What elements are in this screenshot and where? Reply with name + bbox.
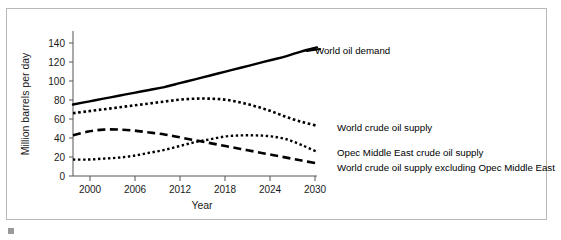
y-axis-ticks: [69, 43, 73, 176]
series-annotation-world-crude-excluding-opec: World crude oil supply excluding Opec Mi…: [337, 162, 555, 173]
oil-supply-demand-chart: 140 120 100 80 60 40 20 0 2000 2006 2012…: [7, 9, 546, 219]
x-tick-label-2012: 2012: [169, 184, 192, 195]
series-annotation-opec-middle-east-crude-oil-supply: Opec Middle East crude oil supply: [337, 147, 483, 158]
x-tick-label-2030: 2030: [304, 184, 327, 195]
series-line-world-crude-oil-supply: [73, 99, 317, 126]
y-axis-title: Million barrels per day: [19, 52, 31, 155]
series-line-world-oil-demand: [73, 47, 317, 104]
corner-artifact-mark: [8, 228, 14, 234]
y-tick-label-140: 140: [48, 38, 65, 49]
y-tick-label-120: 120: [48, 57, 65, 68]
y-tick-label-80: 80: [54, 95, 66, 106]
x-tick-label-2024: 2024: [259, 184, 282, 195]
x-axis-ticks: [90, 176, 315, 181]
y-tick-label-40: 40: [54, 133, 66, 144]
series-annotation-world-oil-demand: World oil demand: [315, 45, 390, 56]
y-tick-label-20: 20: [54, 152, 66, 163]
x-tick-label-2006: 2006: [124, 184, 147, 195]
series-annotation-world-crude-oil-supply: World crude oil supply: [337, 122, 432, 133]
x-axis-title: Year: [191, 199, 213, 211]
x-tick-label-2018: 2018: [214, 184, 237, 195]
series-line-opec-middle-east-crude-oil-supply: [73, 135, 317, 159]
y-tick-label-60: 60: [54, 114, 66, 125]
y-tick-label-100: 100: [48, 76, 65, 87]
x-tick-label-2000: 2000: [79, 184, 102, 195]
y-tick-label-0: 0: [59, 171, 65, 182]
figure-frame: 140 120 100 80 60 40 20 0 2000 2006 2012…: [6, 8, 547, 220]
